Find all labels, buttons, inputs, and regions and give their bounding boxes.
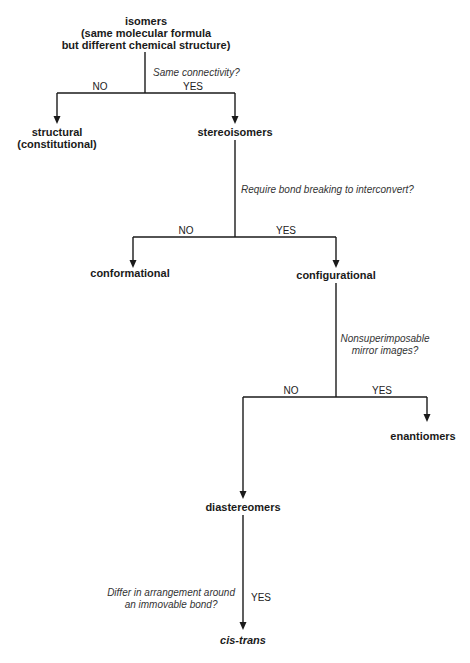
arrowhead-cis-trans	[240, 622, 247, 630]
node-stereoisomers: stereoisomers	[197, 126, 272, 138]
node-configurational: configurational	[296, 269, 375, 281]
arrowhead-stereoisomers	[232, 116, 239, 124]
node-isomers-desc-2: but different chemical structure)	[62, 39, 231, 51]
question-same-connectivity: Same connectivity?	[153, 67, 240, 79]
answer-no-q2: NO	[179, 225, 194, 237]
answer-no-q1: NO	[93, 81, 108, 93]
question-mirror-images-line-2: mirror images?	[341, 345, 430, 357]
node-enantiomers: enantiomers	[390, 430, 455, 442]
answer-no-q3: NO	[284, 385, 299, 397]
node-structural: structural (constitutional)	[17, 126, 96, 150]
answer-yes-q3: YES	[372, 385, 392, 397]
answer-yes-q4: YES	[251, 592, 271, 604]
connector-lines	[0, 0, 470, 663]
answer-yes-q2: YES	[276, 225, 296, 237]
question-immovable-bond-line-2: an immovable bond?	[107, 599, 235, 611]
question-mirror-images-line-1: Nonsuperimposable	[341, 333, 430, 345]
answer-yes-q1: YES	[183, 81, 203, 93]
node-conformational: conformational	[90, 267, 169, 279]
question-immovable-bond: Differ in arrangement around an immovabl…	[107, 587, 235, 611]
node-isomers: isomers (same molecular formula but diff…	[62, 15, 231, 51]
arrowhead-diastereomers	[240, 491, 247, 499]
node-structural-title: structural	[17, 126, 96, 138]
arrowhead-configurational	[333, 260, 340, 268]
node-diastereomers: diastereomers	[205, 501, 280, 513]
node-isomers-title: isomers	[62, 15, 231, 27]
node-structural-subtitle: (constitutional)	[17, 138, 96, 150]
question-immovable-bond-line-1: Differ in arrangement around	[107, 587, 235, 599]
question-bond-breaking: Require bond breaking to interconvert?	[241, 184, 414, 196]
isomer-classification-diagram: isomers (same molecular formula but diff…	[0, 0, 470, 663]
arrowhead-enantiomers	[424, 414, 431, 422]
node-cis-trans: cis-trans	[220, 634, 266, 646]
question-mirror-images: Nonsuperimposable mirror images?	[341, 333, 430, 357]
node-isomers-desc-1: (same molecular formula	[62, 27, 231, 39]
arrowhead-structural	[54, 116, 61, 124]
